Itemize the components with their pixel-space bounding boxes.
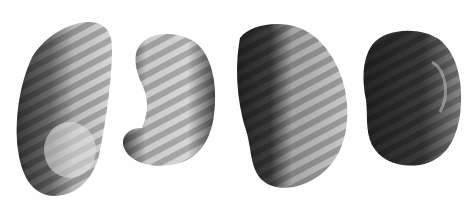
specimen-3 [237, 24, 347, 188]
specimens-illustration [0, 0, 473, 213]
specimen-photo: Grayscale photograph of four kidney-shap… [0, 0, 473, 213]
specimen-2 [123, 34, 215, 166]
specimen-1 [17, 22, 112, 196]
specimen-4 [364, 31, 462, 166]
